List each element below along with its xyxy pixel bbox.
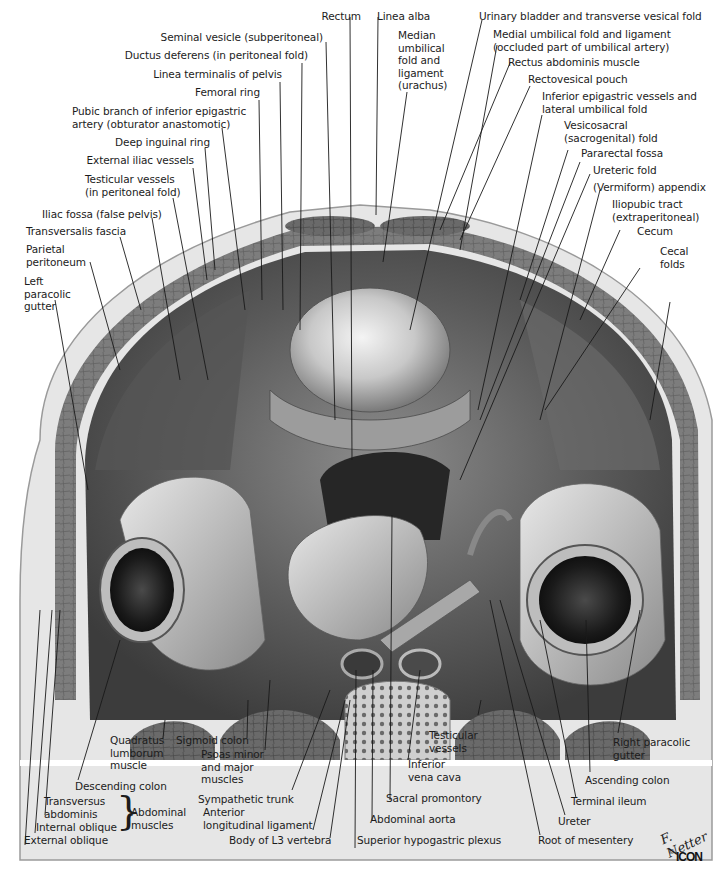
label-root-mesentery: Root of mesentery <box>538 834 633 847</box>
label-inferior-epigastric: Inferior epigastric vessels and lateral … <box>542 90 697 115</box>
label-sacral-promontory: Sacral promontory <box>386 792 482 805</box>
label-iliac-fossa: Iliac fossa (false pelvis) <box>42 208 162 221</box>
label-inferior-vena-cava: Inferior vena cava <box>408 758 461 783</box>
label-transversalis-fascia: Transversalis fascia <box>26 225 126 238</box>
label-urinary-bladder: Urinary bladder and transverse vesical f… <box>479 10 702 23</box>
label-pararectal-fossa: Pararectal fossa <box>581 147 663 160</box>
label-rectus-abdominis: Rectus abdominis muscle <box>508 56 640 69</box>
label-transversus-abdominis: Transversus abdominis <box>44 795 105 820</box>
label-linea-alba: Linea alba <box>377 10 430 23</box>
label-psoas: Psoas minor and major muscles <box>201 748 264 786</box>
label-appendix: (Vermiform) appendix <box>593 181 706 194</box>
artist-signature: F. Netter © ICON <box>658 822 710 872</box>
label-ureteric-fold: Ureteric fold <box>593 164 657 177</box>
label-ductus-deferens: Ductus deferens (in peritoneal fold) <box>125 49 308 62</box>
label-testicular-vessels: Testicular vessels <box>429 729 478 754</box>
label-seminal-vesicle: Seminal vesicle (subperitoneal) <box>161 31 323 44</box>
label-rectum: Rectum <box>322 10 361 23</box>
copyright-mark: © <box>668 848 675 856</box>
label-external-iliac: External iliac vessels <box>87 154 194 167</box>
label-sigmoid-colon: Sigmoid colon <box>176 734 249 747</box>
label-parietal-peritoneum: Parietal peritoneum <box>26 243 86 268</box>
label-median-umbilical: Median umbilical fold and ligament (urac… <box>398 29 447 92</box>
label-medial-umbilical: Medial umbilical fold and ligament (occl… <box>493 28 671 53</box>
label-superior-hypogastric: Superior hypogastric plexus <box>357 834 501 847</box>
label-femoral-ring: Femoral ring <box>195 86 260 99</box>
label-abdominal-aorta: Abdominal aorta <box>370 813 456 826</box>
label-iliopubic-tract: Iliopubic tract (extraperitoneal) <box>612 198 699 223</box>
label-vesicosacral: Vesicosacral (sacrogenital) fold <box>564 119 658 144</box>
label-ascending-colon: Ascending colon <box>585 774 669 787</box>
label-deep-inguinal-ring: Deep inguinal ring <box>115 136 210 149</box>
label-sympathetic-trunk: Sympathetic trunk <box>198 793 294 806</box>
label-pubic-branch: Pubic branch of inferior epigastric arte… <box>72 105 246 130</box>
label-abdominal-muscles: Abdominal muscles <box>131 806 186 831</box>
label-external-oblique: External oblique <box>24 834 108 847</box>
label-left-paracolic-gutter: Left paracolic gutter <box>24 275 71 313</box>
label-cecum: Cecum <box>637 225 673 238</box>
label-linea-terminalis: Linea terminalis of pelvis <box>153 68 282 81</box>
label-terminal-ileum: Terminal ileum <box>571 795 647 808</box>
label-internal-oblique: Internal oblique <box>36 821 117 834</box>
label-body-l3: Body of L3 vertebra <box>229 834 331 847</box>
label-right-paracolic: Right paracolic gutter <box>613 736 690 761</box>
anatomy-figure: Rectum Seminal vesicle (subperitoneal) D… <box>0 0 719 876</box>
label-testicular-vessels-fold: Testicular vessels (in peritoneal fold) <box>85 173 181 198</box>
label-ureter: Ureter <box>558 815 591 828</box>
label-quadratus-lumborum: Quadratus lumborum muscle <box>110 734 164 772</box>
publisher-logo: ICON <box>676 850 702 864</box>
label-rectovesical-pouch: Rectovesical pouch <box>528 73 628 86</box>
label-anterior-longitudinal: Anterior longitudinal ligament <box>203 806 313 831</box>
label-cecal-folds: Cecal folds <box>660 245 688 270</box>
